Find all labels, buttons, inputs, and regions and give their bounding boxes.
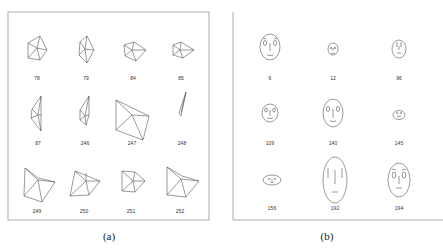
glyph-label: 84 xyxy=(130,75,136,81)
glyph-79 xyxy=(79,36,94,63)
face-label: 140 xyxy=(329,140,338,146)
panel-b-caption: (b) xyxy=(321,230,334,243)
glyph-87 xyxy=(31,96,41,131)
face-109 xyxy=(262,104,278,122)
face-96 xyxy=(392,40,406,58)
face-label: 192 xyxy=(331,205,340,211)
face-label: 96 xyxy=(396,75,402,81)
glyph-84 xyxy=(124,42,146,61)
panel-a-caption: (a) xyxy=(103,230,116,243)
glyph-label: 87 xyxy=(35,140,41,146)
face-label: 156 xyxy=(268,205,277,211)
face-label: 194 xyxy=(395,205,404,211)
face-192 xyxy=(323,157,347,203)
face-194 xyxy=(388,163,410,197)
glyph-label: 248 xyxy=(178,140,187,146)
glyph-85 xyxy=(173,42,194,58)
panel-a: 78 79 84 85 87 xyxy=(8,12,209,220)
glyph-250 xyxy=(70,171,100,196)
figure: 78 79 84 85 87 xyxy=(0,0,443,252)
glyph-248 xyxy=(179,92,186,116)
face-label: 6 xyxy=(269,75,272,81)
face-12 xyxy=(328,43,338,55)
glyph-249 xyxy=(24,168,55,202)
glyph-246 xyxy=(80,96,89,125)
glyph-label: 250 xyxy=(80,208,89,214)
glyph-label: 79 xyxy=(83,75,89,81)
face-140 xyxy=(323,99,343,127)
glyph-247 xyxy=(116,100,149,140)
glyph-label: 247 xyxy=(128,140,137,146)
glyph-label: 249 xyxy=(33,208,42,214)
face-6 xyxy=(260,34,280,60)
panel-b: 6 12 96 109 xyxy=(233,12,443,220)
glyph-label: 78 xyxy=(34,75,40,81)
glyph-label: 246 xyxy=(81,140,90,146)
glyph-label: 252 xyxy=(176,208,185,214)
glyph-label: 251 xyxy=(127,208,136,214)
glyph-252 xyxy=(167,167,199,197)
face-label: 145 xyxy=(395,140,404,146)
face-156 xyxy=(263,175,281,185)
face-label: 12 xyxy=(330,75,336,81)
glyph-label: 85 xyxy=(178,75,184,81)
glyph-78 xyxy=(28,36,47,60)
face-label: 109 xyxy=(266,140,275,146)
face-145 xyxy=(393,111,405,120)
glyph-251 xyxy=(122,171,145,192)
